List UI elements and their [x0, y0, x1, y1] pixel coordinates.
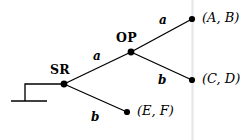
- node-cd[interactable]: [189, 77, 195, 83]
- payoff-label-cd: (C, D): [202, 72, 240, 85]
- ground-symbol: [11, 84, 64, 101]
- node-op[interactable]: [128, 49, 135, 56]
- node-ef[interactable]: [124, 109, 130, 115]
- diagram-canvas: SR OP (A, B) (C, D) (E, F) a b a b: [0, 0, 252, 140]
- node-root[interactable]: [61, 81, 68, 88]
- edge-label-op-ab: a: [159, 14, 167, 26]
- payoff-label-ef: (E, F): [137, 104, 174, 117]
- node-ab[interactable]: [189, 16, 195, 22]
- payoff-label-ab: (A, B): [202, 11, 239, 24]
- node-label-op: OP: [116, 32, 137, 45]
- edge-label-root-op: a: [93, 50, 101, 62]
- edge-label-op-cd: b: [158, 74, 166, 86]
- edge-label-root-ef: b: [91, 111, 99, 123]
- node-label-root: SR: [50, 64, 70, 77]
- edge-root-ef: [64, 84, 127, 112]
